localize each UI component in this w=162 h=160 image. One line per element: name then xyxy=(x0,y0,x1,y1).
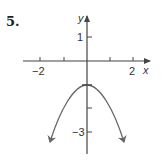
graph-figure: 5. −2 2 x y 1 xyxy=(0,0,162,160)
y-axis-label: y xyxy=(77,12,85,24)
y-tick-label-neg3: −3 xyxy=(72,126,85,138)
x-axis-label: x xyxy=(142,64,149,76)
parabola-right xyxy=(87,85,124,142)
x-tick-label-neg2: −2 xyxy=(32,65,45,77)
coordinate-plane: −2 2 x y 1 −3 xyxy=(0,0,162,160)
x-tick-label-2: 2 xyxy=(129,65,135,77)
y-tick-label-1: 1 xyxy=(77,31,83,43)
